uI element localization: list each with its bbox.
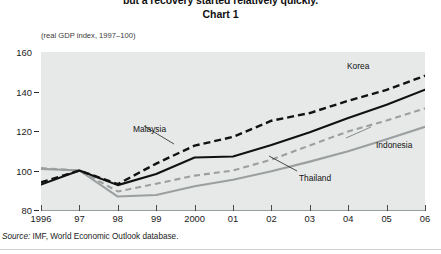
x-tick-label-2000: 2000 (184, 213, 205, 224)
source-note: Source: IMF, World Economic Outlook data… (2, 232, 178, 241)
x-tick-mark-98 (118, 205, 119, 211)
x-tick-label-01: 01 (228, 213, 238, 224)
x-tick-mark-03 (310, 205, 311, 211)
x-tick-mark-01 (233, 205, 234, 211)
series-label-malaysia: Malaysia (133, 124, 166, 134)
bottom-rule (0, 249, 441, 250)
y-tick-label-120: 120 (16, 126, 32, 137)
y-tick-label-100: 100 (16, 165, 32, 176)
y-tick-mark-140 (34, 92, 39, 93)
x-tick-label-1996: 1996 (31, 213, 52, 224)
source-text: IMF, World Economic Outlook database. (33, 232, 179, 241)
chart-figure: but a recovery started relatively quickl… (0, 0, 441, 254)
x-tick-mark-04 (348, 205, 349, 211)
x-tick-mark-1996 (41, 205, 42, 211)
y-tick-label-160: 160 (16, 47, 32, 58)
x-tick-label-06: 06 (420, 213, 430, 224)
x-tick-label-99: 99 (151, 213, 161, 224)
x-tick-mark-06 (425, 205, 426, 211)
y-tick-label-140: 140 (16, 86, 32, 97)
x-tick-mark-99 (156, 205, 157, 211)
series-line-korea (41, 76, 425, 184)
plot-area (41, 52, 425, 210)
chart-number: Chart 1 (0, 8, 441, 20)
source-label: Source: (2, 232, 30, 241)
x-tick-label-04: 04 (343, 213, 353, 224)
figure-headline: but a recovery started relatively quickl… (0, 0, 441, 6)
series-line-malaysia (41, 90, 425, 185)
x-tick-label-98: 98 (113, 213, 123, 224)
y-tick-mark-80 (34, 210, 39, 211)
x-tick-mark-97 (79, 205, 80, 211)
y-tick-mark-100 (34, 171, 39, 172)
series-label-korea: Korea (347, 61, 369, 71)
axis-unit-note: (real GDP index, 1997–100) (41, 31, 135, 40)
series-label-thailand: Thailand (299, 173, 331, 183)
series-label-indonesia: Indonesia (376, 140, 412, 150)
y-tick-mark-120 (34, 131, 39, 132)
x-tick-mark-05 (387, 205, 388, 211)
series-line-indonesia (41, 127, 425, 197)
x-tick-label-97: 97 (74, 213, 84, 224)
x-tick-label-03: 03 (305, 213, 315, 224)
x-tick-mark-02 (271, 205, 272, 211)
x-tick-mark-2000 (195, 205, 196, 211)
x-tick-label-05: 05 (381, 213, 391, 224)
x-tick-label-02: 02 (266, 213, 276, 224)
series-canvas (41, 52, 425, 210)
